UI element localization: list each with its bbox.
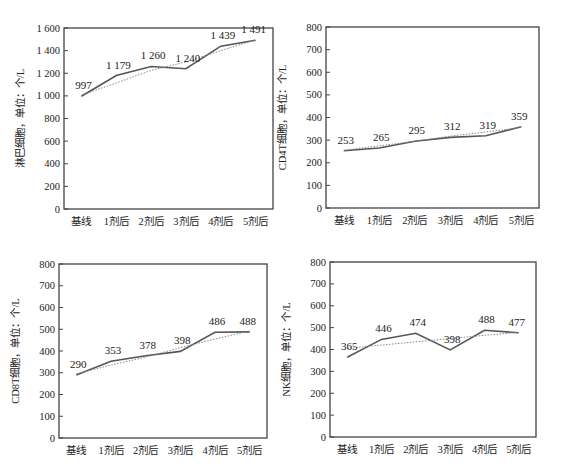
y-tick-label: 200 xyxy=(44,181,60,192)
x-category-label: 基线 xyxy=(334,214,355,226)
y-tick-label: 600 xyxy=(306,67,322,78)
y-tick-label: 1 000 xyxy=(36,90,60,101)
y-tick-label: 0 xyxy=(317,203,322,214)
y-tick-label: 700 xyxy=(310,278,326,289)
y-tick-label: 1 200 xyxy=(36,68,60,79)
y-tick-label: 0 xyxy=(50,433,55,444)
plot-frame xyxy=(59,264,267,438)
x-category-label: 基线 xyxy=(66,444,87,456)
data-label: 290 xyxy=(70,358,87,370)
y-tick-label: 500 xyxy=(39,324,55,335)
y-tick-label: 600 xyxy=(310,300,326,311)
x-category-label: 4剂后 xyxy=(202,444,227,456)
data-line xyxy=(347,330,519,357)
y-tick-label: 1 600 xyxy=(36,23,60,34)
y-tick-label: 300 xyxy=(306,135,322,146)
x-category-label: 1剂后 xyxy=(367,214,392,226)
chart-panel-2: 0100200300400500600700800基线1剂后2剂后3剂后4剂后5… xyxy=(276,22,539,227)
y-tick-label: 1 400 xyxy=(36,45,60,56)
x-category-label: 基线 xyxy=(71,215,92,227)
chart-panel-4: 0100200300400500600700800基线1剂后2剂后3剂后4剂后5… xyxy=(280,257,536,456)
data-label: 353 xyxy=(105,344,122,356)
data-label: 398 xyxy=(444,333,461,345)
data-label: 365 xyxy=(341,340,358,352)
y-tick-label: 400 xyxy=(310,344,326,355)
data-label: 1 439 xyxy=(210,29,235,41)
data-label: 359 xyxy=(511,110,528,122)
x-category-label: 5剂后 xyxy=(509,214,534,226)
data-label: 295 xyxy=(409,124,426,136)
data-label: 1 260 xyxy=(141,49,166,61)
y-axis-title: CD8T细胞，单位：个/L xyxy=(9,298,21,404)
y-tick-label: 300 xyxy=(310,366,326,377)
y-tick-label: 300 xyxy=(39,367,55,378)
y-tick-label: 100 xyxy=(306,180,322,191)
data-label: 253 xyxy=(338,134,355,146)
x-category-label: 3剂后 xyxy=(168,444,193,456)
y-tick-label: 200 xyxy=(310,388,326,399)
data-label: 477 xyxy=(509,316,526,328)
x-category-label: 5剂后 xyxy=(243,215,268,227)
data-line xyxy=(76,332,249,375)
trend-line xyxy=(76,331,249,374)
y-tick-label: 0 xyxy=(321,432,326,443)
data-label: 488 xyxy=(239,315,256,327)
y-tick-label: 500 xyxy=(310,322,326,333)
data-label: 997 xyxy=(75,79,92,91)
data-label: 1 491 xyxy=(241,23,266,35)
plot-frame xyxy=(64,28,273,209)
y-tick-label: 800 xyxy=(310,257,326,268)
x-category-label: 3剂后 xyxy=(438,214,463,226)
x-category-label: 基线 xyxy=(337,443,358,455)
x-category-label: 4剂后 xyxy=(208,215,233,227)
x-category-label: 2剂后 xyxy=(402,214,427,226)
x-category-label: 3剂后 xyxy=(438,443,463,455)
x-category-label: 4剂后 xyxy=(473,214,498,226)
data-label: 319 xyxy=(480,119,497,131)
x-category-label: 3剂后 xyxy=(173,215,198,227)
x-category-label: 5剂后 xyxy=(237,444,262,456)
data-label: 398 xyxy=(174,334,191,346)
plot-frame xyxy=(326,27,539,208)
data-label: 446 xyxy=(375,322,392,334)
y-tick-label: 500 xyxy=(306,89,322,100)
chart-panel-1: 02004006008001 0001 2001 4001 600基线1剂后2剂… xyxy=(14,23,273,228)
data-label: 486 xyxy=(209,315,226,327)
y-tick-label: 400 xyxy=(39,346,55,357)
data-label: 378 xyxy=(139,339,156,351)
y-tick-label: 100 xyxy=(310,410,326,421)
chart-grid: 02004006008001 0001 2001 4001 600基线1剂后2剂… xyxy=(0,0,565,476)
x-category-label: 4剂后 xyxy=(472,443,497,455)
x-category-label: 2剂后 xyxy=(133,444,158,456)
y-tick-label: 700 xyxy=(306,44,322,55)
data-label: 488 xyxy=(478,313,495,325)
chart-panel-3: 0100200300400500600700800基线1剂后2剂后3剂后4剂后5… xyxy=(9,259,267,457)
y-axis-title: NK细胞，单位：个/L xyxy=(280,302,292,397)
trend-line xyxy=(347,332,519,348)
y-tick-label: 400 xyxy=(44,158,60,169)
y-tick-label: 600 xyxy=(44,136,60,147)
data-label: 1 179 xyxy=(106,59,131,71)
x-category-label: 2剂后 xyxy=(403,443,428,455)
y-tick-label: 100 xyxy=(39,411,55,422)
x-category-label: 1剂后 xyxy=(369,443,394,455)
x-category-label: 1剂后 xyxy=(104,215,129,227)
y-tick-label: 800 xyxy=(39,259,55,270)
x-category-label: 1剂后 xyxy=(98,444,123,456)
y-tick-label: 200 xyxy=(306,157,322,168)
y-tick-label: 800 xyxy=(306,22,322,33)
y-tick-label: 800 xyxy=(44,113,60,124)
x-category-label: 5剂后 xyxy=(506,443,531,455)
y-axis-title: 淋巴细胞，单位：个/L xyxy=(14,69,26,168)
y-axis-title: CD4T细胞，单位：个/L xyxy=(276,65,288,171)
x-category-label: 2剂后 xyxy=(138,215,163,227)
y-tick-label: 600 xyxy=(39,302,55,313)
data-label: 1 240 xyxy=(176,52,201,64)
data-label: 312 xyxy=(444,120,461,132)
y-tick-label: 200 xyxy=(39,389,55,400)
data-label: 265 xyxy=(373,131,390,143)
y-tick-label: 0 xyxy=(55,204,60,215)
y-tick-label: 400 xyxy=(306,112,322,123)
data-label: 474 xyxy=(410,316,427,328)
y-tick-label: 700 xyxy=(39,280,55,291)
